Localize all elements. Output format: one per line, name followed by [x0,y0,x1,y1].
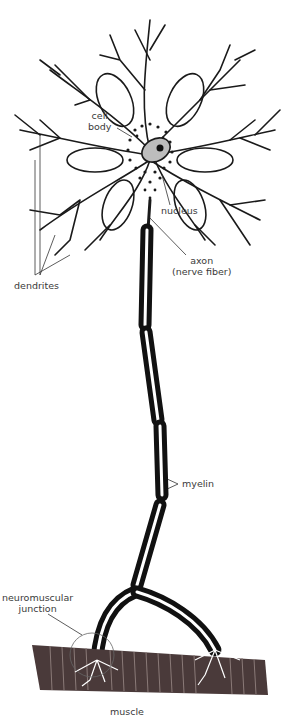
muscle-drawing [32,633,268,695]
neuromuscular-junction-label: neuromuscular junction [2,592,73,614]
axon-label: axon (nerve fiber) [172,255,231,277]
cell-body-label: cell body [88,110,112,132]
muscle-label: muscle [110,706,144,717]
dendrites-label: dendrites [14,280,59,291]
nucleus-label: nucleus [161,205,198,216]
myelin-label: myelin [182,478,214,489]
